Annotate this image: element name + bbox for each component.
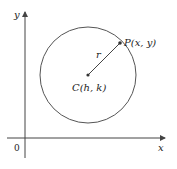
point-p [118,41,122,45]
origin-label: 0 [14,143,20,153]
center-point [86,73,89,76]
center-label: C(h, k) [72,82,106,93]
x-axis-label: x [158,142,164,153]
point-p-label: P(x, y) [123,37,156,48]
radius-label: r [96,49,102,60]
radius-line [88,43,120,75]
y-axis-label: y [13,9,20,20]
circle-diagram: y x 0 P(x, y) r C(h, k) [0,0,177,169]
